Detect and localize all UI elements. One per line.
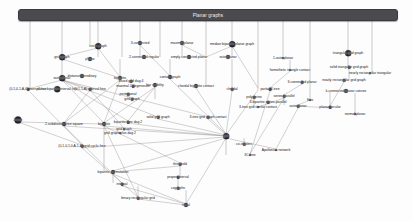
node-dot-icon — [132, 85, 135, 88]
edge-diagonal — [276, 108, 298, 149]
edge-diagonal — [170, 79, 226, 134]
node-dot-icon — [157, 116, 160, 119]
node-dot-icon — [119, 132, 121, 134]
node-dot-icon — [127, 121, 130, 124]
node-dot-icon — [168, 75, 172, 79]
node-dot-icon — [95, 43, 101, 49]
node-dot-icon — [229, 41, 235, 47]
edge-diagonal — [208, 119, 226, 135]
edge-diagonal — [62, 80, 208, 117]
node-dot-icon — [111, 170, 115, 174]
node-dot-icon — [138, 41, 142, 45]
edge-diagonal — [62, 80, 158, 117]
node-dot-icon — [257, 106, 259, 108]
edge-diagonal — [226, 138, 276, 149]
edge-diagonal — [82, 148, 138, 197]
node-dot-icon — [177, 176, 180, 179]
node-dot-icon — [253, 96, 256, 99]
node-dot-icon — [59, 54, 65, 60]
node-dot-icon — [369, 72, 371, 74]
edge-diagonal — [62, 59, 120, 78]
edge-diagonal — [128, 123, 226, 136]
node-dot-icon — [343, 79, 346, 82]
node-dot-icon — [345, 50, 351, 56]
edge-diagonal — [18, 122, 82, 145]
edge-diagonal — [298, 106, 330, 108]
node-dot-icon — [153, 83, 157, 87]
edge-diagonal — [62, 80, 104, 123]
node-dot-icon — [123, 128, 125, 130]
node-dot-icon — [137, 197, 140, 200]
node-dot-icon — [187, 55, 191, 59]
node-dot-icon — [348, 66, 351, 69]
node-dot-icon — [102, 122, 106, 126]
edge-diagonal — [104, 126, 180, 163]
edge-diagonal — [64, 126, 226, 136]
edge-diagonal — [113, 174, 186, 204]
edge-diagonal — [128, 87, 155, 121]
node-dot-icon — [243, 143, 246, 146]
node-dot-icon — [289, 69, 291, 71]
edge-diagonal — [330, 82, 344, 106]
node-dot-icon — [59, 75, 65, 81]
node-dot-icon — [282, 57, 284, 59]
node-dot-icon — [283, 95, 286, 98]
node-dot-icon — [194, 84, 198, 88]
diagram-canvas: Planar graphs circle graph3-connectedmax… — [0, 0, 413, 221]
planar-graphs-banner: Planar graphs — [18, 9, 398, 21]
banner-label: Planar graphs — [193, 12, 224, 17]
node-dot-icon — [81, 145, 84, 148]
edge-diagonal — [64, 126, 122, 183]
node-dot-icon — [127, 93, 130, 96]
node-dot-icon — [223, 133, 229, 139]
edge-diagonal — [140, 45, 170, 76]
edge-diagonal — [196, 88, 226, 134]
node-dot-icon — [184, 203, 188, 207]
edge-diagonal — [284, 84, 302, 95]
node-dot-icon — [180, 41, 184, 45]
edge-diagonal — [182, 45, 206, 57]
node-dot-icon — [249, 154, 251, 156]
node-dot-icon — [27, 88, 30, 91]
edge-diagonal — [30, 92, 82, 145]
node-dot-icon — [354, 113, 356, 115]
edge-diagonal — [62, 80, 128, 121]
node-dot-icon — [177, 187, 180, 190]
node-dot-icon — [179, 163, 182, 166]
node-dot-icon — [15, 117, 22, 124]
edge-diagonal — [98, 48, 120, 77]
node-dot-icon — [231, 88, 234, 91]
edge-diagonal — [64, 90, 90, 123]
edge-diagonal — [113, 166, 180, 172]
node-dot-icon — [131, 98, 134, 101]
node-dot-icon — [344, 89, 348, 93]
edge-diagonal — [82, 137, 226, 148]
node-dot-icon — [267, 101, 270, 104]
node-dot-icon — [62, 122, 66, 126]
edge-layer — [0, 0, 413, 221]
node-dot-icon — [275, 149, 277, 151]
node-dot-icon — [207, 116, 210, 119]
node-dot-icon — [297, 105, 300, 108]
edge-diagonal — [258, 98, 284, 107]
edge-diagonal — [62, 48, 98, 57]
node-dot-icon — [269, 88, 272, 91]
node-dot-icon — [130, 80, 133, 83]
edge-diagonal — [298, 100, 310, 105]
node-dot-icon — [88, 57, 92, 61]
node-dot-icon — [118, 76, 122, 80]
node-dot-icon — [309, 99, 311, 101]
edge-diagonal — [232, 46, 258, 88]
node-dot-icon — [80, 74, 84, 78]
edge-diagonal — [250, 98, 284, 154]
edge-diagonal — [104, 126, 138, 197]
node-dot-icon — [54, 86, 60, 92]
node-dot-icon — [329, 106, 332, 109]
edge-diagonal — [90, 90, 124, 128]
edge-diagonal — [270, 71, 290, 88]
node-dot-icon — [142, 55, 146, 59]
node-dot-icon — [121, 183, 124, 186]
node-dot-icon — [226, 55, 230, 59]
node-dot-icon — [89, 88, 92, 91]
node-dot-icon — [301, 81, 304, 84]
